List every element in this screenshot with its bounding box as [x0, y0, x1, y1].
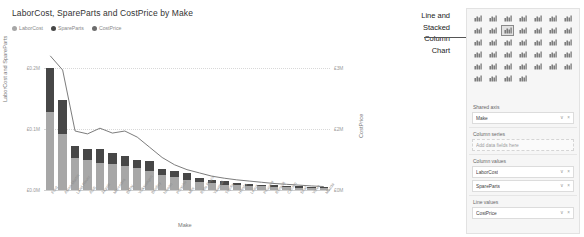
well-field-label: Add data fields here [476, 143, 519, 148]
close-icon[interactable]: × [567, 211, 570, 216]
waterfall-chart-icon[interactable] [546, 25, 559, 36]
annotation-text-line: Stacked [396, 22, 450, 34]
visualizations-pane[interactable]: Shared axisMake∨×Column seriesAdd data f… [466, 8, 580, 234]
well-title: Column series [469, 128, 577, 139]
line-series-costprice [44, 52, 330, 190]
map-icon[interactable] [531, 37, 544, 48]
table-icon[interactable] [561, 49, 574, 60]
smart-narrative-icon[interactable] [546, 61, 559, 72]
pie-chart-icon[interactable] [486, 37, 499, 48]
filled-map-icon[interactable] [546, 37, 559, 48]
shape-map-icon[interactable] [561, 37, 574, 48]
card-icon[interactable] [501, 49, 514, 60]
well-title: Column values [469, 155, 577, 166]
y-axis-tick-left: £0.0M [18, 188, 40, 193]
line-chart-icon[interactable] [561, 13, 574, 24]
kpi-icon[interactable] [531, 49, 544, 60]
key-influencers-icon[interactable] [501, 61, 514, 72]
stacked-area-chart-icon[interactable] [486, 25, 499, 36]
legend-swatch-icon [12, 26, 17, 31]
qna-icon[interactable] [531, 61, 544, 72]
y-axis-tick-right: £0M [334, 188, 356, 193]
matrix-icon[interactable] [471, 73, 484, 84]
well-field-placeholder[interactable]: Add data fields here [472, 139, 574, 151]
hundred-percent-stacked-bar-chart-icon[interactable] [501, 13, 514, 24]
well-field-actions[interactable]: ∨× [560, 116, 570, 121]
line-and-clustered-column-chart-icon[interactable] [516, 25, 529, 36]
stacked-column-chart-icon[interactable] [516, 13, 529, 24]
power-apps-icon[interactable] [486, 73, 499, 84]
well-field[interactable]: Make∨× [472, 112, 574, 124]
well-title: Line values [469, 196, 577, 207]
y-axis-title-right: CostPrice [358, 114, 364, 138]
y-axis-tick-left: £0.1M [18, 127, 40, 132]
annotation-leader-line [424, 37, 466, 38]
well-field[interactable]: CostPrice∨× [472, 207, 574, 219]
x-axis-title: Make [178, 222, 192, 228]
annotation-text-line: Chart [396, 45, 450, 57]
decomposition-tree-icon[interactable] [516, 61, 529, 72]
y-axis-tick-left: £0.2M [18, 66, 40, 71]
multi-row-card-icon[interactable] [516, 49, 529, 60]
legend-label: SpareParts [58, 25, 84, 31]
field-wells[interactable]: Shared axisMake∨×Column seriesAdd data f… [469, 101, 577, 221]
donut-chart-icon[interactable] [501, 37, 514, 48]
legend-item-spareparts[interactable]: SpareParts [51, 25, 84, 31]
legend-item-costprice[interactable]: CostPrice [92, 25, 122, 31]
close-icon[interactable]: × [567, 184, 570, 189]
visualization-type-gallery[interactable] [471, 13, 575, 84]
costprice-line-path [50, 56, 324, 187]
legend-swatch-icon [92, 26, 97, 31]
treemap-icon[interactable] [516, 37, 529, 48]
well-title: Shared axis [469, 101, 577, 112]
arcgis-map-icon[interactable] [471, 49, 484, 60]
y-axis-tick-right: £3M [334, 66, 356, 71]
r-script-visual-icon[interactable] [471, 61, 484, 72]
well-field-label: LaborCost [476, 170, 498, 175]
well-field-actions[interactable]: ∨× [560, 211, 570, 216]
chart-title: LaborCost, SpareParts and CostPrice by M… [12, 8, 193, 18]
legend-label: CostPrice [99, 25, 122, 31]
annotation-text-line: Line and [396, 10, 450, 22]
chevron-down-icon[interactable]: ∨ [560, 211, 564, 216]
line-and-stacked-column-chart-icon[interactable] [501, 25, 514, 36]
paginated-report-icon[interactable] [561, 61, 574, 72]
chevron-down-icon[interactable]: ∨ [560, 116, 564, 121]
chevron-down-icon[interactable]: ∨ [560, 184, 564, 189]
slicer-icon[interactable] [546, 49, 559, 60]
clustered-column-chart-icon[interactable] [531, 13, 544, 24]
annotation-callout: Line andStackedColumnChart [396, 10, 450, 56]
stacked-bar-chart-icon[interactable] [471, 13, 484, 24]
well-field[interactable]: LaborCost∨× [472, 166, 574, 178]
well-field-actions[interactable]: ∨× [560, 170, 570, 175]
scatter-chart-icon[interactable] [471, 37, 484, 48]
chevron-down-icon[interactable]: ∨ [560, 170, 564, 175]
close-icon[interactable]: × [567, 116, 570, 121]
well-field-label: SpareParts [476, 184, 500, 189]
area-chart-icon[interactable] [471, 25, 484, 36]
ribbon-chart-icon[interactable] [531, 25, 544, 36]
screenshot-root: LaborCost, SpareParts and CostPrice by M… [0, 0, 584, 237]
legend-item-laborcost[interactable]: LaborCost [12, 25, 43, 31]
chart-visual[interactable]: LaborCost, SpareParts and CostPrice by M… [0, 0, 390, 237]
close-icon[interactable]: × [567, 170, 570, 175]
python-visual-icon[interactable] [486, 61, 499, 72]
annotation-text-line: Column [396, 33, 450, 45]
clustered-bar-chart-icon[interactable] [486, 13, 499, 24]
more-options-icon[interactable] [516, 73, 529, 84]
well-field-label: Make [476, 116, 488, 121]
hundred-percent-stacked-column-chart-icon[interactable] [546, 13, 559, 24]
get-more-visuals-icon[interactable] [501, 73, 514, 84]
well-field-label: CostPrice [476, 211, 497, 216]
gauge-icon[interactable] [486, 49, 499, 60]
legend-label: LaborCost [19, 25, 43, 31]
y-axis-tick-right: £2M [334, 127, 356, 132]
well-field[interactable]: SpareParts∨× [472, 180, 574, 192]
chart-legend: LaborCostSparePartsCostPrice [12, 25, 121, 31]
well-field-actions[interactable]: ∨× [560, 184, 570, 189]
funnel-chart-icon[interactable] [561, 25, 574, 36]
legend-swatch-icon [51, 26, 56, 31]
y-axis-title-left: LaborCost and SpareParts [2, 36, 8, 102]
